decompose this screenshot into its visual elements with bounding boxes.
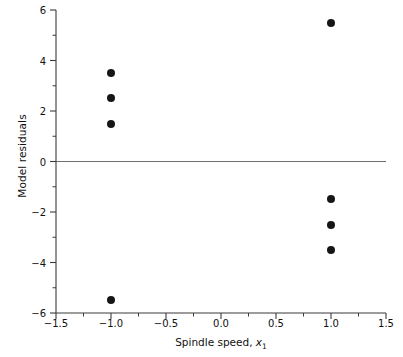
data-point: [327, 246, 335, 254]
data-point: [107, 120, 115, 128]
data-point: [327, 19, 335, 27]
data-point: [327, 195, 335, 203]
data-point: [107, 296, 115, 304]
data-point: [327, 221, 335, 229]
data-points-layer: [0, 0, 403, 357]
data-point: [107, 69, 115, 77]
residuals-scatter-chart: Model residuals Spindle speed, x1 6420−2…: [0, 0, 403, 357]
data-point: [107, 94, 115, 102]
